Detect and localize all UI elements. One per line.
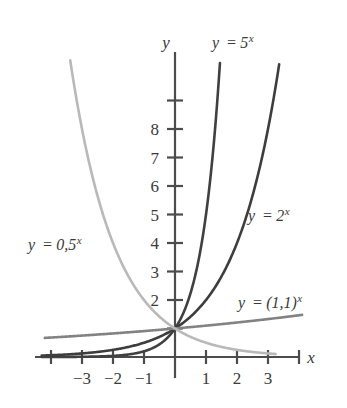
x-tick-label-1: 1: [202, 369, 211, 388]
exponential-graph-svg: −3−2−1123 2345678 x y y = 5x y = 2x y = …: [0, 0, 347, 408]
y-tick-labels: 2345678: [151, 120, 160, 310]
x-tick-label-2: 2: [233, 369, 242, 388]
label-base: (1,1): [266, 294, 297, 312]
label-exponent: x: [296, 292, 302, 304]
label-lhs: y: [26, 236, 36, 254]
label-operator: =: [39, 236, 56, 253]
x-tick-label-neg1: −1: [135, 369, 153, 388]
y-tick-label-6: 6: [151, 177, 160, 196]
y-tick-label-7: 7: [151, 149, 160, 168]
label-lhs: y: [236, 294, 246, 312]
curve-label-2-pow-x: y = 2x: [246, 205, 290, 225]
curve-labels-group: y = 5x y = 2x y = (1,1)x y = 0,5x: [26, 32, 302, 312]
label-exponent: x: [284, 205, 290, 217]
y-tick-label-3: 3: [151, 263, 160, 282]
label-base: 2: [276, 207, 284, 224]
x-tick-label-neg3: −3: [73, 369, 91, 388]
label-lhs: y: [246, 207, 256, 225]
curve-label-5-pow-x: y = 5x: [210, 32, 254, 52]
curve-label-0point5-pow-x: y = 0,5x: [26, 234, 82, 254]
x-axis-label: x: [306, 348, 315, 367]
exponential-functions-figure: −3−2−1123 2345678 x y y = 5x y = 2x y = …: [0, 0, 347, 408]
x-tick-label-neg2: −2: [104, 369, 122, 388]
y-tick-label-5: 5: [151, 206, 160, 225]
label-exponent: x: [248, 32, 254, 44]
x-tick-label-3: 3: [264, 369, 273, 388]
label-operator: =: [249, 294, 266, 311]
label-operator: =: [223, 34, 240, 51]
label-base: 0,5: [56, 236, 76, 253]
y-tick-label-2: 2: [151, 291, 160, 310]
label-base: 5: [240, 34, 248, 51]
y-tick-label-8: 8: [151, 120, 160, 139]
y-tick-label-4: 4: [151, 234, 160, 253]
label-exponent: x: [76, 234, 82, 246]
y-axis-label: y: [160, 33, 170, 52]
curve-label-1point1-pow-x: y = (1,1)x: [236, 292, 302, 312]
label-operator: =: [259, 207, 276, 224]
x-tick-labels: −3−2−1123: [73, 369, 272, 388]
label-lhs: y: [210, 34, 220, 52]
